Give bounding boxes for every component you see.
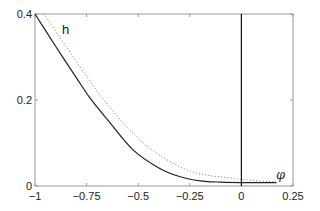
x-tick-label: 0 xyxy=(238,190,244,202)
x-tick-label: −0.5 xyxy=(127,190,149,202)
x-tick-label: 0.25 xyxy=(282,190,303,202)
x-tick-label: −0.75 xyxy=(73,190,101,202)
chart: −1−0.75−0.5−0.2500.2500.20.4 h φ xyxy=(0,0,320,211)
solid-curve xyxy=(35,14,276,183)
tick-labels: −1−0.75−0.5−0.2500.2500.20.4 xyxy=(17,8,304,202)
plot-frame xyxy=(35,14,293,186)
x-tick-label: −0.25 xyxy=(176,190,204,202)
y-tick-label: 0.4 xyxy=(17,8,32,20)
curve-label-h: h xyxy=(62,22,69,37)
y-tick-label: 0 xyxy=(26,180,32,192)
y-tick-label: 0.2 xyxy=(17,94,32,106)
x-axis-label-phi: φ xyxy=(276,167,286,182)
axis-ticks xyxy=(35,14,293,186)
